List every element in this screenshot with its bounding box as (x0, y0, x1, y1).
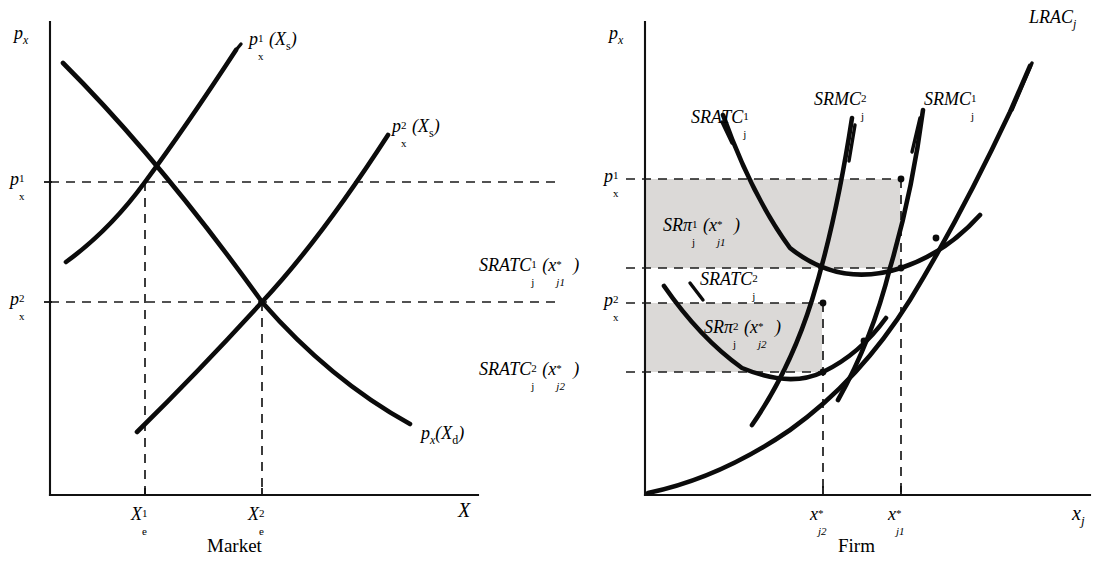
economics-figure: px p1x p2x X1e X2e X p1x(Xs) p2x(Xs) px(… (0, 0, 1114, 575)
firm-y-axis-label: px (609, 24, 623, 46)
market-y-axis-label: px (14, 24, 28, 46)
market-caption: Market (207, 535, 262, 557)
firm-ytick-label-sratc2: SRATC2j(x*j2) (479, 360, 579, 378)
market-xtick-label-1: X1e (131, 505, 155, 523)
lrac-curve-label: LRACj (1029, 8, 1076, 30)
srmc1-curve-label: SRMC1j (924, 90, 982, 108)
lrac-label-leader (1012, 63, 1032, 110)
firm-xtick-label-2: x*j2 (810, 505, 835, 523)
firm-caption: Firm (838, 535, 875, 557)
profit-region-1-label: SRπ1j(x*j1) (663, 216, 740, 234)
firm-ytick-label-price1: p1x (604, 167, 624, 185)
firm-ytick-label-sratc1: SRATC1j(x*j1) (479, 256, 579, 274)
point-tangency-sratc1-lrac (898, 265, 905, 272)
sratc1-curve-label: SRATC1j (691, 108, 754, 126)
supply1-label-leader (236, 44, 241, 50)
firm-x-axis-label: xj (1072, 503, 1085, 527)
profit-region-2-label: SRπ2j(x*j2) (704, 318, 781, 336)
sratc2-curve-label: SRATC2j (700, 270, 763, 288)
demand-curve (63, 63, 410, 424)
supply-curve-2-label: p2x(Xs) (392, 117, 440, 139)
demand-curve-label: px(Xd) (421, 424, 464, 446)
market-xtick-label-2: X2e (248, 505, 272, 523)
market-ytick-label-2: p2x (10, 290, 30, 308)
point-tangency-sratc2-lrac (820, 369, 827, 376)
firm-xtick-label-1: x*j1 (888, 505, 913, 523)
firm-ytick-label-price2: p2x (604, 291, 624, 309)
point-lrac-upper (933, 235, 940, 242)
supply-curve-1-label: p1x(Xs) (249, 30, 297, 52)
market-x-axis-label: X (458, 500, 470, 520)
market-ytick-label-1: p1x (10, 170, 30, 188)
srmc2-curve-label: SRMC2j (814, 90, 872, 108)
point-p1-srmc1 (898, 176, 905, 183)
point-lrac-lower (861, 338, 868, 345)
point-p2-srmc2 (820, 300, 827, 307)
